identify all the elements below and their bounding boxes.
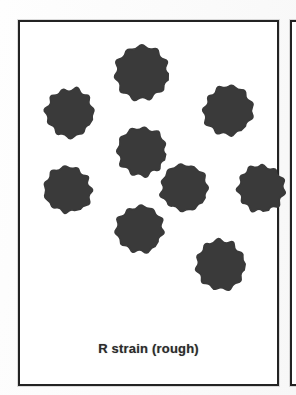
rough-bacterium-cell (195, 77, 261, 143)
rough-cell-glyph (106, 37, 178, 109)
rough-cell-glyph (229, 156, 293, 220)
figure-root: R strain (rough) (0, 0, 296, 395)
rough-cell-glyph (195, 77, 261, 143)
panel-caption: R strain (rough) (18, 341, 279, 356)
rough-bacterium-cell (186, 231, 254, 299)
rough-cell-glyph (186, 231, 254, 299)
rough-bacterium-cell (108, 197, 172, 261)
rough-cell-glyph (36, 158, 100, 222)
rough-bacterium-cell (36, 158, 100, 222)
rough-cell-glyph (108, 197, 172, 261)
rough-bacterium-cell (106, 37, 178, 109)
rough-bacterium-cell (229, 156, 293, 220)
rough-cell-glyph (37, 80, 103, 146)
rough-bacterium-cell (37, 80, 103, 146)
